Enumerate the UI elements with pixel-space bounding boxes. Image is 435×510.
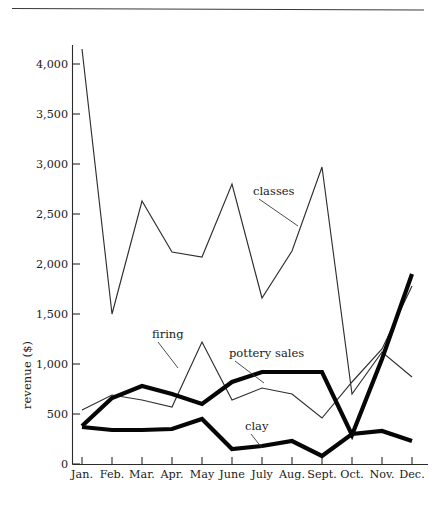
y-tick-label: 3,500 bbox=[36, 108, 68, 121]
series-layer bbox=[82, 49, 412, 456]
x-tick-label: Feb. bbox=[100, 468, 125, 481]
x-tick-label: May bbox=[190, 468, 215, 481]
series-annotation-firing: firing bbox=[152, 327, 184, 341]
y-tick-label: 0 bbox=[61, 458, 68, 471]
x-tick-label: Apr. bbox=[160, 468, 184, 481]
y-tick-label: 2,500 bbox=[36, 208, 68, 221]
y-axis-group: 05001,0001,5002,0002,5003,0003,5004,000 bbox=[36, 45, 80, 471]
x-tick-label: June bbox=[218, 468, 245, 481]
line-chart-plot: 05001,0001,5002,0002,5003,0003,5004,000 … bbox=[0, 0, 435, 510]
series-annotation-pottery-sales: pottery sales bbox=[229, 346, 304, 360]
x-tick-label: Oct. bbox=[340, 468, 364, 481]
x-tick-label: Mar. bbox=[129, 468, 155, 481]
x-tick-label: Jan. bbox=[70, 468, 93, 481]
series-annotation-classes: classes bbox=[253, 184, 295, 198]
x-axis-group: Jan.Feb.Mar.Apr.MayJuneJulyAug.Sept.Oct.… bbox=[70, 457, 428, 481]
y-tick-group: 05001,0001,5002,0002,5003,0003,5004,000 bbox=[36, 58, 80, 471]
annotation-leader-line bbox=[259, 199, 298, 226]
y-tick-label: 1,000 bbox=[36, 358, 68, 371]
annotation-leader-line bbox=[158, 342, 178, 368]
series-line-classes bbox=[82, 49, 412, 394]
y-tick-label: 4,000 bbox=[36, 58, 68, 71]
annotation-layer: classesfiringpottery salesclay bbox=[152, 184, 304, 448]
chart-figure: revenue ($) 05001,0001,5002,0002,5003,00… bbox=[0, 0, 435, 510]
y-tick-label: 500 bbox=[47, 408, 68, 421]
x-tick-label: Nov. bbox=[369, 468, 394, 481]
y-tick-label: 2,000 bbox=[36, 258, 68, 271]
x-tick-label: Sept. bbox=[307, 468, 337, 481]
x-tick-group: Jan.Feb.Mar.Apr.MayJuneJulyAug.Sept.Oct.… bbox=[70, 457, 425, 481]
x-tick-label: July bbox=[250, 468, 273, 481]
series-annotation-clay: clay bbox=[245, 419, 269, 433]
x-tick-label: Dec. bbox=[399, 468, 424, 481]
y-tick-label: 3,000 bbox=[36, 158, 68, 171]
x-tick-label: Aug. bbox=[278, 468, 305, 481]
y-tick-label: 1,500 bbox=[36, 308, 68, 321]
